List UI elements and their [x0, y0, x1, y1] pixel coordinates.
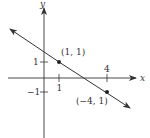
x-tick-4-label: 4 [104, 64, 110, 74]
point-1-label: (1, 1) [61, 47, 85, 57]
coordinate-plane: x y 1 4 1 −1 (1, 1) (−4, 1) [0, 0, 150, 138]
y-axis-label: y [39, 0, 46, 9]
y-tick-pos-label: 1 [33, 57, 39, 67]
x-axis-label: x [140, 73, 145, 83]
point-2 [105, 90, 109, 94]
y-tick-neg-label: −1 [27, 87, 40, 97]
point-2-label: (−4, 1) [76, 96, 108, 106]
point-1 [57, 60, 61, 64]
x-tick-1-label: 1 [57, 83, 63, 93]
